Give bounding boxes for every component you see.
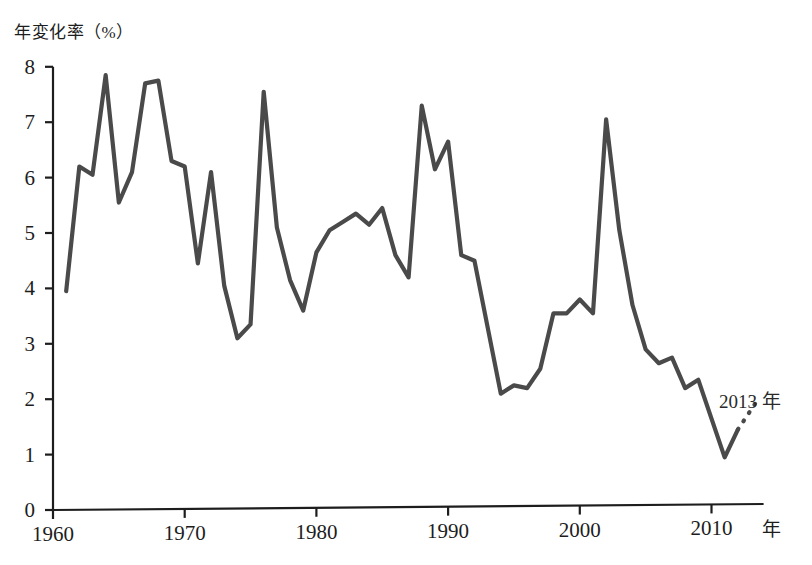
x-tick-label: 1960 (32, 522, 74, 546)
y-axis: 012345678 (25, 55, 54, 522)
x-tick-label: 1990 (427, 519, 469, 543)
chart-page: 年変化率（%） 012345678 1960197019801990200020… (0, 0, 812, 565)
x-axis-unit-label: 年 (762, 514, 781, 541)
y-tick-label: 2 (25, 387, 36, 411)
y-tick-label: 5 (25, 221, 36, 245)
data-series-line (66, 75, 738, 457)
y-tick-label: 6 (25, 166, 36, 190)
x-tick-label: 1980 (295, 520, 337, 544)
x-axis: 196019701980199020002010 (32, 504, 764, 546)
y-tick-label: 7 (25, 110, 36, 134)
line-chart-plot: 012345678 196019701980199020002010 (0, 0, 812, 565)
x-axis-spine (53, 504, 764, 510)
y-tick-label: 8 (25, 55, 36, 79)
x-tick-label: 2000 (559, 518, 601, 542)
y-tick-label: 0 (25, 498, 36, 522)
y-tick-label: 1 (25, 443, 36, 467)
x-tick-label: 1970 (164, 521, 206, 545)
x-tick-label: 2010 (691, 516, 733, 540)
annotation-2013-label: 2013 年 (719, 386, 781, 413)
y-tick-label: 3 (25, 332, 36, 356)
y-tick-label: 4 (25, 276, 36, 300)
